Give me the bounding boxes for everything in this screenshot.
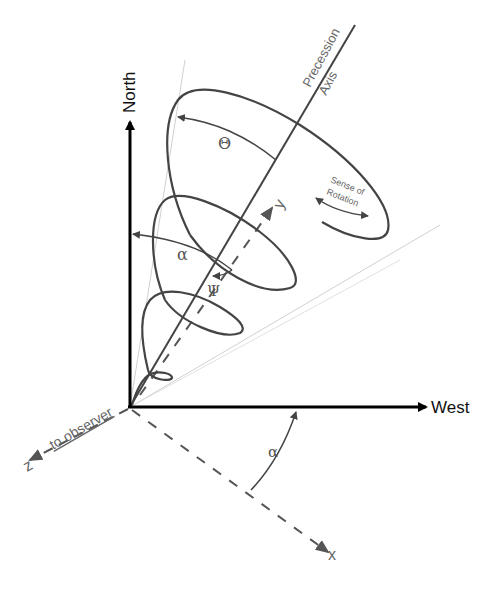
- x-axis-label: x: [328, 546, 336, 563]
- north-label: North: [120, 71, 139, 113]
- spiral-loop-large: [167, 90, 388, 239]
- spiral-loop-small: [142, 292, 243, 370]
- alpha-lower-label: α: [268, 443, 278, 461]
- precession-spiral: [132, 90, 388, 405]
- x-axis-dashed: [132, 410, 328, 552]
- y-axis-dashed: [140, 208, 272, 395]
- alpha-upper-label: α: [177, 245, 188, 264]
- cone-line-inner: [130, 260, 400, 407]
- theta-label: Θ: [218, 134, 231, 153]
- west-label: West: [431, 398, 470, 417]
- z-axis-caption: to observer: [47, 404, 116, 453]
- y-axis-label: y: [270, 196, 289, 211]
- precession-diagram: North West Precession Axis y x z to obse…: [0, 0, 502, 599]
- psi-label: Ψ: [207, 282, 220, 300]
- cone-guides: [130, 60, 440, 407]
